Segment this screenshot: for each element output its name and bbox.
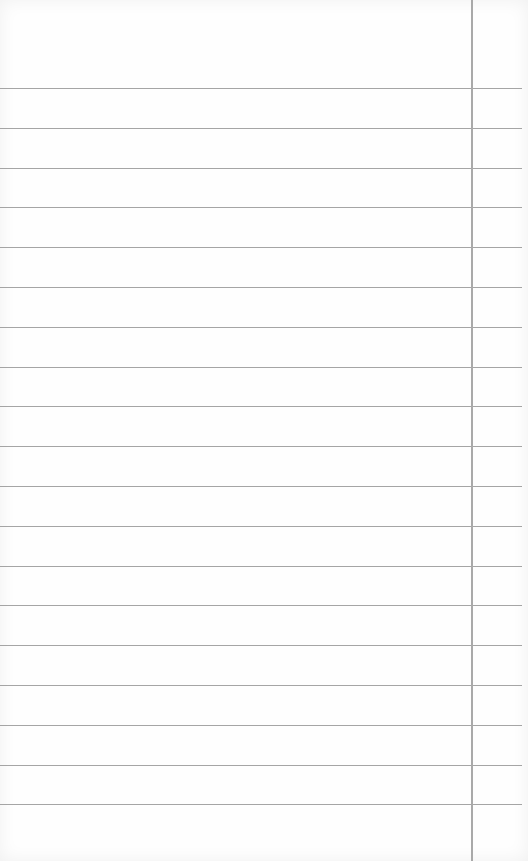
lined-paper-sheet xyxy=(0,0,528,861)
ruled-line xyxy=(0,88,522,89)
ruled-line xyxy=(0,645,522,646)
ruled-line xyxy=(0,287,522,288)
ruled-line xyxy=(0,725,522,726)
ruled-line xyxy=(0,765,522,766)
ruled-line xyxy=(0,685,522,686)
ruled-line xyxy=(0,367,522,368)
ruled-line xyxy=(0,446,522,447)
ruled-line xyxy=(0,804,522,805)
ruled-line xyxy=(0,207,522,208)
ruled-line xyxy=(0,247,522,248)
ruled-line xyxy=(0,605,522,606)
right-margin-line xyxy=(471,0,473,861)
ruled-line xyxy=(0,406,522,407)
ruled-line xyxy=(0,327,522,328)
ruled-line xyxy=(0,526,522,527)
ruled-line xyxy=(0,486,522,487)
ruled-line xyxy=(0,168,522,169)
ruled-line xyxy=(0,128,522,129)
ruled-line xyxy=(0,566,522,567)
